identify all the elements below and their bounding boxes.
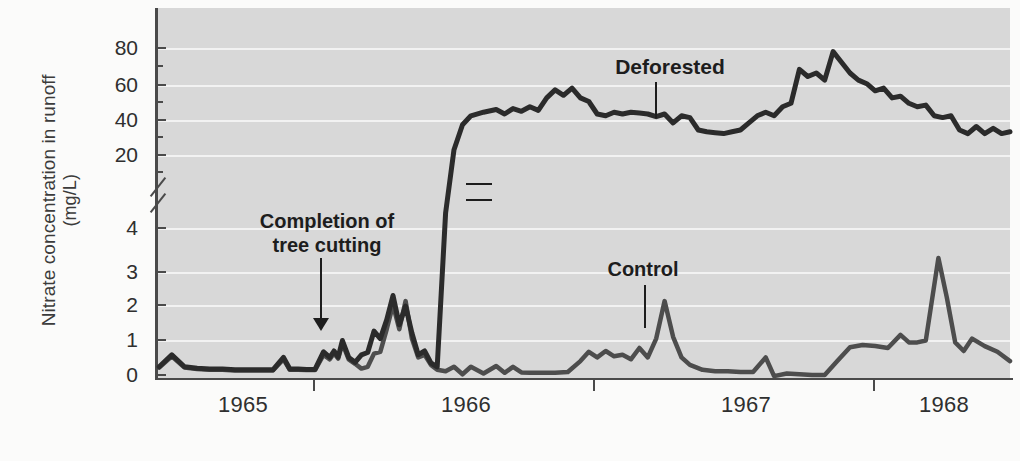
annotation-tree-cutting-line1: Completion of (260, 210, 394, 232)
series-break-symbol-lower (466, 199, 492, 201)
annotation-tree-cutting: Completion of tree cutting (232, 210, 422, 257)
series-break-symbol-upper (466, 183, 492, 185)
annotation-control-leader (644, 285, 646, 328)
annotation-tree-cutting-line2: tree cutting (273, 234, 382, 256)
series-layer (0, 0, 1020, 461)
annotation-deforested-leader (655, 82, 657, 118)
annotation-control: Control (578, 258, 708, 281)
annotation-deforested: Deforested (580, 55, 760, 79)
annotation-tree-cutting-leader (320, 258, 322, 320)
annotation-tree-cutting-arrowhead (313, 318, 329, 331)
chart-figure: Nitrate concentration in runoff (mg/L) 8… (0, 0, 1020, 461)
